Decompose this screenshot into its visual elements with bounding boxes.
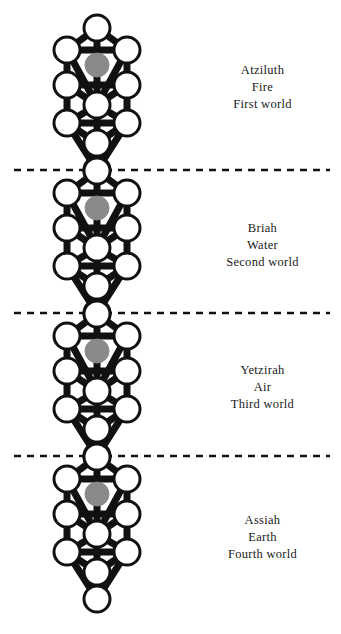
sephirah-tiphareth [84, 235, 110, 261]
sephirah-malkuth [84, 586, 110, 612]
sephirah-netzach [114, 110, 140, 136]
world-element-3: Air [190, 379, 335, 396]
sephirah-chesed [114, 501, 140, 527]
world-label-3: Yetzirah Air Third world [190, 362, 335, 413]
sephirah-tiphareth [84, 378, 110, 404]
sephirah-kether [84, 301, 110, 327]
jacobs-ladder-figure: Atziluth Fire First world Briah Water Se… [0, 0, 341, 634]
world-element-1: Fire [190, 79, 335, 96]
world-ordinal-1: First world [190, 96, 335, 113]
sephirah-hod [54, 110, 80, 136]
sephirah-chokmah [114, 180, 140, 206]
sephirah-yesod [84, 559, 110, 585]
sephirah-kether [84, 15, 110, 41]
world-label-1: Atziluth Fire First world [190, 62, 335, 113]
sephirah-geburah [54, 501, 80, 527]
sephirah-hod [54, 539, 80, 565]
sephirah-geburah [54, 72, 80, 98]
world-element-2: Water [190, 237, 335, 254]
world-label-4: Assiah Earth Fourth world [190, 512, 335, 563]
sephirah-binah [54, 37, 80, 63]
sephirah-daath [85, 339, 109, 363]
world-name-1: Atziluth [190, 62, 335, 79]
sephirah-kether [84, 444, 110, 470]
sephirah-chokmah [114, 466, 140, 492]
world-name-4: Assiah [190, 512, 335, 529]
sephirah-daath [85, 196, 109, 220]
world-name-2: Briah [190, 220, 335, 237]
sephirah-binah [54, 323, 80, 349]
sephirah-kether [84, 158, 110, 184]
world-ordinal-2: Second world [190, 254, 335, 271]
sephirah-daath [85, 53, 109, 77]
sephirah-geburah [54, 215, 80, 241]
sephirah-binah [54, 466, 80, 492]
sephirah-chokmah [114, 37, 140, 63]
sephirah-yesod [84, 416, 110, 442]
world-element-4: Earth [190, 529, 335, 546]
world-name-3: Yetzirah [190, 362, 335, 379]
world-label-2: Briah Water Second world [190, 220, 335, 271]
sephirah-chesed [114, 215, 140, 241]
sephirah-hod [54, 396, 80, 422]
sephirah-tiphareth [84, 521, 110, 547]
sephirah-yesod [84, 130, 110, 156]
sephirah-binah [54, 180, 80, 206]
world-ordinal-3: Third world [190, 396, 335, 413]
sephirah-netzach [114, 396, 140, 422]
sephirah-tiphareth [84, 92, 110, 118]
sephirah-chesed [114, 358, 140, 384]
sephirah-netzach [114, 539, 140, 565]
sephirah-chokmah [114, 323, 140, 349]
world-ordinal-4: Fourth world [190, 546, 335, 563]
sephirah-geburah [54, 358, 80, 384]
sephirah-chesed [114, 72, 140, 98]
sephirah-hod [54, 253, 80, 279]
sephirah-daath [85, 482, 109, 506]
sephirah-yesod [84, 273, 110, 299]
sephirah-netzach [114, 253, 140, 279]
